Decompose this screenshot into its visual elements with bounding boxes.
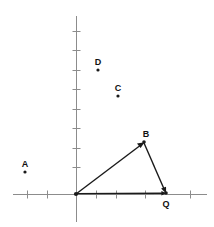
point-dot-q [164, 191, 168, 195]
geometry-figure-canvas: A B C D Q [0, 0, 214, 227]
point-label-c: C [115, 83, 122, 93]
point-label-a: A [22, 159, 29, 169]
triangle-segments-group [76, 142, 166, 195]
coordinate-plane-svg: A B C D Q [0, 0, 214, 227]
point-label-q: Q [162, 199, 169, 209]
segment-origin-to-b [76, 145, 142, 195]
axes-group [13, 16, 207, 222]
point-dot-c [116, 94, 119, 97]
point-dot-b [142, 140, 146, 144]
point-dot-d [96, 68, 99, 71]
segment-b-to-q [144, 143, 165, 190]
point-dot-a [23, 170, 26, 173]
point-dot-origin [74, 192, 78, 196]
point-label-d: D [95, 57, 102, 67]
point-label-b: B [143, 129, 150, 139]
point-labels-group: A B C D Q [22, 57, 170, 209]
